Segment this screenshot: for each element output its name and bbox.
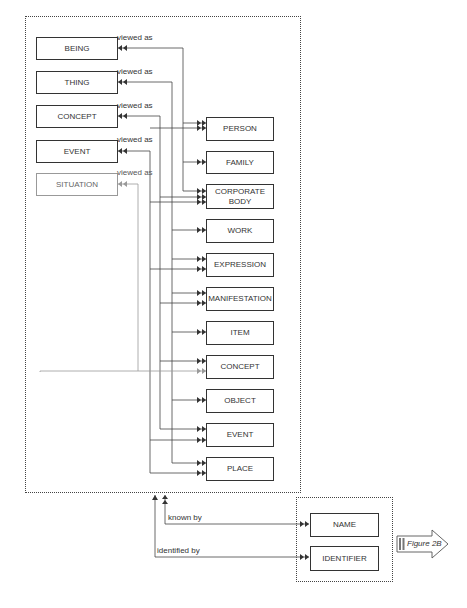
entity-family: FAMILY — [206, 151, 274, 174]
entity-label: CONCEPT — [220, 362, 259, 372]
entity-person: PERSON — [206, 117, 274, 141]
entity-label-line1: CORPORATE — [215, 187, 265, 197]
entity-label: WORK — [228, 226, 253, 236]
entity-relationship-diagram: BEING THING CONCEPT EVENT SITUATION view… — [0, 0, 467, 608]
entity-label: BEING — [65, 44, 90, 54]
entity-label: MANIFESTATION — [208, 294, 272, 304]
entity-concept-right: CONCEPT — [206, 355, 274, 379]
entity-name: NAME — [310, 513, 379, 537]
entity-label: CONCEPT — [57, 112, 96, 122]
relation-label-viewed-as: viewed as — [117, 168, 153, 177]
entity-event-left: EVENT — [36, 140, 118, 163]
entity-label: OBJECT — [224, 396, 256, 406]
entity-label: NAME — [333, 520, 356, 530]
entity-label: FAMILY — [226, 158, 254, 168]
entity-label: EVENT — [227, 430, 254, 440]
entity-situation: SITUATION — [36, 173, 118, 196]
entity-identifier: IDENTIFIER — [310, 546, 379, 571]
entity-label-line2: BODY — [229, 197, 252, 207]
relation-label-viewed-as: viewed as — [117, 33, 153, 42]
entity-label: EXPRESSION — [214, 260, 266, 270]
relation-label-viewed-as: viewed as — [117, 67, 153, 76]
relation-label-identified-by: identified by — [157, 546, 200, 555]
entity-label: IDENTIFIER — [322, 554, 366, 564]
entity-label: ITEM — [230, 328, 249, 338]
entity-thing: THING — [36, 71, 118, 94]
entity-expression: EXPRESSION — [206, 253, 274, 277]
entity-label: PERSON — [223, 124, 257, 134]
figure-2b-link[interactable]: Figure 2B — [407, 539, 442, 548]
relation-label-viewed-as: viewed as — [117, 101, 153, 110]
entity-being: BEING — [36, 37, 118, 60]
entity-item: ITEM — [206, 321, 274, 345]
relation-label-viewed-as: viewed as — [117, 135, 153, 144]
entity-label: PLACE — [227, 464, 253, 474]
entity-label: EVENT — [64, 147, 91, 157]
entity-object: OBJECT — [206, 389, 274, 413]
entity-label: SITUATION — [56, 180, 98, 190]
entity-work: WORK — [206, 219, 274, 243]
entity-place: PLACE — [206, 457, 274, 481]
entity-corporate-body: CORPORATE BODY — [206, 184, 274, 209]
entity-concept-left: CONCEPT — [36, 105, 118, 128]
entity-event-right: EVENT — [206, 423, 274, 447]
entity-label: THING — [65, 78, 90, 88]
relation-label-known-by: known by — [168, 513, 202, 522]
entity-manifestation: MANIFESTATION — [206, 287, 274, 311]
